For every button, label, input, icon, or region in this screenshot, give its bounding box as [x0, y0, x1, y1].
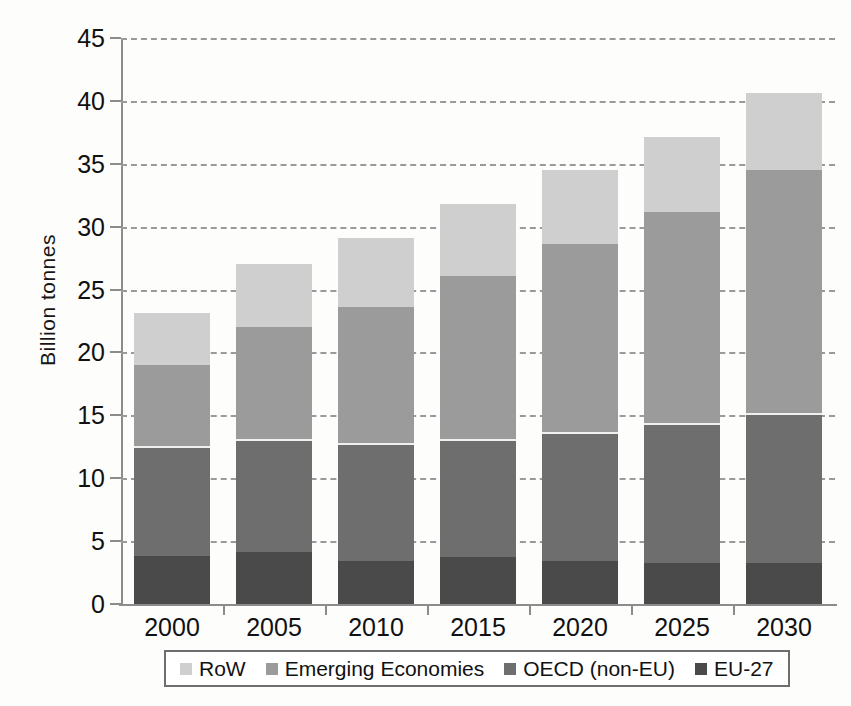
legend-swatch-icon — [504, 663, 516, 675]
bar-segment[interactable] — [440, 557, 516, 604]
bar-group[interactable] — [440, 204, 516, 604]
x-tick-label: 2015 — [450, 613, 506, 642]
y-tick-label: 30 — [77, 212, 105, 241]
plot-area: 051015202530354045 — [121, 38, 835, 604]
bars-container — [121, 38, 835, 604]
bar-group[interactable] — [644, 137, 720, 604]
bar-segment[interactable] — [746, 563, 822, 605]
legend-swatch-icon — [180, 663, 192, 675]
x-tick-label: 2020 — [552, 613, 608, 642]
y-tick-label: 45 — [77, 24, 105, 53]
legend-swatch-icon — [695, 663, 707, 675]
x-tick-mark — [631, 604, 633, 615]
x-tick-mark — [733, 604, 735, 615]
bar-segment[interactable] — [134, 365, 210, 445]
y-tick-mark-15 — [110, 414, 121, 416]
x-tick-label: 2000 — [144, 613, 200, 642]
bar-segment[interactable] — [338, 238, 414, 307]
bar-segment[interactable] — [746, 170, 822, 413]
bar-segment[interactable] — [236, 552, 312, 604]
bar-segment[interactable] — [746, 93, 822, 170]
x-tick-mark — [223, 604, 225, 615]
bar-segment[interactable] — [542, 561, 618, 604]
x-tick-label: 2030 — [756, 613, 812, 642]
bar-segment[interactable] — [236, 327, 312, 439]
y-tick-mark-10 — [110, 477, 121, 479]
bar-segment[interactable] — [134, 313, 210, 365]
x-tick-mark — [529, 604, 531, 615]
y-tick-label: 40 — [77, 86, 105, 115]
legend-item[interactable]: EU-27 — [695, 658, 774, 679]
bar-segment[interactable] — [134, 446, 210, 557]
bar-segment[interactable] — [134, 556, 210, 604]
y-tick-mark-45 — [110, 37, 121, 39]
y-tick-mark-20 — [110, 351, 121, 353]
bar-group[interactable] — [236, 264, 312, 604]
y-tick-label: 20 — [77, 338, 105, 367]
x-tick-label: 2025 — [654, 613, 710, 642]
y-tick-mark-40 — [110, 100, 121, 102]
legend-label: OECD (non-EU) — [523, 658, 675, 679]
bar-segment[interactable] — [542, 244, 618, 431]
legend-label: Emerging Economies — [285, 658, 485, 679]
x-tick-mark — [325, 604, 327, 615]
y-tick-label: 25 — [77, 275, 105, 304]
bar-segment[interactable] — [338, 443, 414, 561]
bar-segment[interactable] — [542, 170, 618, 244]
bar-segment[interactable] — [644, 563, 720, 605]
bar-segment[interactable] — [236, 439, 312, 552]
x-tick-label: 2005 — [246, 613, 302, 642]
y-tick-mark-25 — [110, 289, 121, 291]
y-tick-mark-30 — [110, 226, 121, 228]
legend-swatch-icon — [266, 663, 278, 675]
bar-segment[interactable] — [440, 276, 516, 440]
legend-label: RoW — [199, 658, 246, 679]
bar-segment[interactable] — [644, 137, 720, 211]
bar-segment[interactable] — [236, 264, 312, 327]
legend: RoWEmerging EconomiesOECD (non-EU)EU-27 — [164, 650, 790, 687]
y-tick-mark-35 — [110, 163, 121, 165]
bar-group[interactable] — [542, 170, 618, 604]
bar-segment[interactable] — [338, 561, 414, 604]
bar-group[interactable] — [134, 313, 210, 604]
legend-item[interactable]: Emerging Economies — [266, 658, 485, 679]
y-tick-label: 15 — [77, 401, 105, 430]
bar-segment[interactable] — [644, 423, 720, 563]
bar-segment[interactable] — [746, 413, 822, 563]
y-tick-label: 5 — [91, 527, 105, 556]
bar-segment[interactable] — [542, 432, 618, 562]
y-tick-label: 35 — [77, 149, 105, 178]
y-tick-mark-5 — [110, 540, 121, 542]
legend-item[interactable]: OECD (non-EU) — [504, 658, 675, 679]
x-tick-label: 2010 — [348, 613, 404, 642]
legend-label: EU-27 — [714, 658, 774, 679]
bar-group[interactable] — [746, 93, 822, 604]
x-tick-mark — [427, 604, 429, 615]
y-tick-label: 0 — [91, 590, 105, 619]
y-tick-label: 10 — [77, 464, 105, 493]
stacked-bar-chart: Billion tonnes 051015202530354045 200020… — [0, 0, 851, 706]
legend-item[interactable]: RoW — [180, 658, 246, 679]
bar-segment[interactable] — [440, 439, 516, 557]
bar-segment[interactable] — [440, 204, 516, 276]
y-axis-title: Billion tonnes — [36, 170, 60, 430]
bar-segment[interactable] — [338, 307, 414, 443]
x-axis-line — [119, 604, 837, 606]
bar-segment[interactable] — [644, 212, 720, 423]
bar-group[interactable] — [338, 238, 414, 604]
